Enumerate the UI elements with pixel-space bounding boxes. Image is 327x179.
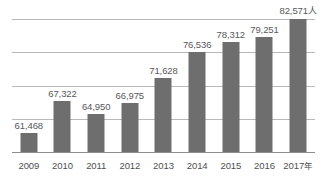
x-tick-label: 2014: [187, 160, 208, 171]
bar-value-label: 71,628: [149, 65, 177, 76]
bar-group: 71,628: [147, 19, 181, 152]
bar-value-label: 66,975: [116, 90, 144, 101]
bar-group: 76,536: [180, 19, 214, 152]
bar-group: 66,975: [113, 19, 147, 152]
bar-value-label: 76,536: [183, 39, 211, 50]
x-tick-label: 2017年: [283, 160, 313, 171]
bar: [155, 78, 172, 152]
bar-group: 64,950: [79, 19, 113, 152]
bar-value-label: 67,322: [48, 88, 76, 99]
x-tick: 2014: [180, 155, 214, 173]
x-tick-label: 2009: [18, 160, 39, 171]
x-tick-label: 2012: [119, 160, 140, 171]
bar-group: 67,322: [46, 19, 80, 152]
bar: [121, 103, 138, 152]
bar-value-label: 79,251: [250, 24, 278, 35]
bar-value-label: 82,571人: [279, 4, 316, 17]
x-tick: 2017年: [281, 155, 315, 173]
x-tick-label: 2016: [254, 160, 275, 171]
bar-chart: 61,46867,32264,95066,97571,62876,53678,3…: [0, 0, 327, 179]
x-tick-label: 2011: [86, 160, 106, 171]
bar-group: 79,251: [248, 19, 282, 152]
bar-value-label: 61,468: [15, 120, 43, 131]
bar: [290, 19, 307, 152]
x-tick: 2016: [248, 155, 282, 173]
x-axis: 200920102011201220132014201520162017年: [12, 155, 315, 175]
x-tick: 2010: [46, 155, 80, 173]
x-tick-label: 2013: [153, 160, 174, 171]
x-tick: 2012: [113, 155, 147, 173]
bar-value-label: 78,312: [217, 29, 245, 40]
bar: [54, 101, 71, 152]
axis-baseline: [12, 152, 315, 153]
bar: [256, 37, 273, 152]
x-tick: 2011: [79, 155, 113, 173]
bar: [189, 52, 206, 152]
x-tick: 2013: [147, 155, 181, 173]
bar-group: 82,571人: [281, 19, 315, 152]
x-tick-label: 2015: [220, 160, 241, 171]
bar-group: 78,312: [214, 19, 248, 152]
x-tick: 2009: [12, 155, 46, 173]
x-tick-label: 2010: [52, 160, 73, 171]
bar-value-label: 64,950: [82, 101, 110, 112]
x-tick: 2015: [214, 155, 248, 173]
bar: [20, 133, 37, 152]
bars-layer: 61,46867,32264,95066,97571,62876,53678,3…: [12, 19, 315, 152]
bar: [222, 42, 239, 152]
bar-group: 61,468: [12, 19, 46, 152]
bar: [88, 114, 105, 152]
plot-area: 61,46867,32264,95066,97571,62876,53678,3…: [12, 19, 315, 152]
